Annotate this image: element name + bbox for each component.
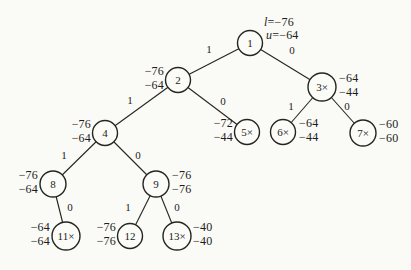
- node-4-label: 4: [102, 127, 108, 139]
- edge-label-9-13: 0: [174, 201, 180, 213]
- node-8-label: 8: [50, 178, 56, 190]
- node-12-bound-1: −76: [97, 220, 116, 234]
- node-5-bound-2: −44: [214, 130, 233, 144]
- node-3-bound-1: −64: [339, 71, 358, 85]
- node-3-label: 3×: [316, 81, 328, 93]
- node-3: 3×: [308, 73, 336, 101]
- node-7-label: 7×: [357, 127, 369, 139]
- node-9-bound-1: −76: [172, 168, 191, 182]
- node-13-label: 13×: [168, 230, 185, 242]
- node-11-bound-1: −64: [31, 220, 50, 234]
- node-5-bound-1: −72: [214, 116, 233, 130]
- node-7-bound-1: −60: [379, 117, 398, 131]
- node-6-label: 6×: [277, 126, 289, 138]
- node-1-label: 1: [247, 37, 253, 49]
- edge-label-8-11: 0: [67, 201, 73, 213]
- node-4-bound-2: −64: [72, 131, 91, 145]
- node-6-bound-2: −44: [299, 130, 318, 144]
- node-12: 12: [118, 224, 143, 249]
- node-5-label: 5×: [241, 126, 253, 138]
- branch-and-bound-tree-figure: 1 0 1 0 1 0 1 0 0 1 0 1 2 3× 4 5×: [0, 0, 411, 270]
- edge-label-1-2: 1: [206, 43, 212, 55]
- node-4-bound-1: −76: [72, 117, 91, 131]
- node-8-bound-2: −64: [19, 182, 38, 196]
- node-12-bound-2: −76: [97, 234, 116, 248]
- node-13-bound-1: −40: [193, 220, 212, 234]
- node-12-label: 12: [125, 230, 136, 242]
- node-5: 5×: [235, 120, 260, 145]
- node-4: 4: [93, 121, 118, 146]
- node-9: 9: [143, 171, 169, 197]
- node-11: 11×: [52, 222, 80, 250]
- node-13: 13×: [163, 222, 191, 250]
- node-8-bound-1: −76: [19, 168, 38, 182]
- edge-label-9-12: 1: [125, 201, 131, 213]
- node-3-bound-2: −44: [339, 85, 358, 99]
- edge-label-4-8: 1: [61, 149, 67, 161]
- node-7-bound-2: −60: [379, 131, 398, 145]
- node-1: 1: [238, 31, 263, 56]
- edge-label-4-9: 0: [135, 149, 141, 161]
- node-2-label: 2: [175, 74, 181, 86]
- edge-label-2-4: 1: [127, 94, 133, 106]
- node-6-bound-1: −64: [299, 116, 318, 130]
- node-9-bound-2: −76: [172, 182, 191, 196]
- edge-label-3-6: 1: [288, 100, 294, 112]
- node-11-label: 11×: [58, 230, 75, 242]
- node-8: 8: [40, 171, 66, 197]
- root-upper-bound: u=−64: [266, 28, 299, 42]
- node-7: 7×: [350, 120, 376, 146]
- root-lower-bound: l=−76: [264, 15, 294, 29]
- node-6: 6×: [271, 120, 296, 145]
- edge-label-1-3: 0: [289, 44, 295, 56]
- node-2-bound-1: −76: [145, 64, 164, 78]
- edge-label-3-7: 0: [344, 100, 350, 112]
- node-13-bound-2: −40: [193, 234, 212, 248]
- edge-2-4: [105, 80, 178, 133]
- node-11-bound-2: −64: [31, 234, 50, 248]
- edge-label-2-5: 0: [220, 95, 226, 107]
- node-2-bound-2: −64: [145, 78, 164, 92]
- node-2: 2: [166, 68, 191, 93]
- node-9-label: 9: [153, 178, 159, 190]
